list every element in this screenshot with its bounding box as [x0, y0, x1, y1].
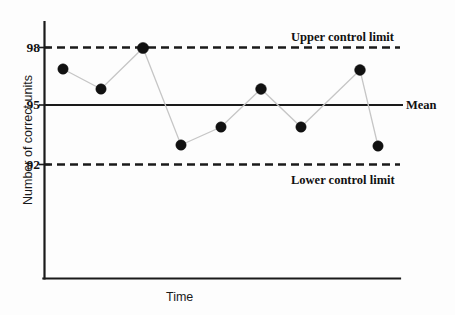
data-point[interactable] — [137, 42, 148, 53]
chart-canvas — [0, 0, 455, 315]
data-point[interactable] — [96, 84, 106, 94]
x-axis-title: Time — [166, 291, 193, 304]
data-point[interactable] — [176, 140, 186, 150]
mean-label: Mean — [406, 99, 437, 112]
upper-control-limit-label: Upper control limit — [291, 31, 394, 44]
data-point[interactable] — [216, 122, 226, 132]
data-point[interactable] — [296, 122, 306, 132]
lower-control-limit-label: Lower control limit — [291, 174, 395, 187]
control-chart: 98 95 92 Upper control limit Mean Lower … — [0, 0, 455, 315]
data-point[interactable] — [256, 84, 267, 95]
y-tick-label-98: 98 — [12, 41, 40, 55]
data-point[interactable] — [355, 65, 366, 76]
y-axis-title: Number of correct units — [22, 75, 35, 205]
data-point[interactable] — [58, 64, 68, 74]
data-point[interactable] — [373, 141, 383, 151]
